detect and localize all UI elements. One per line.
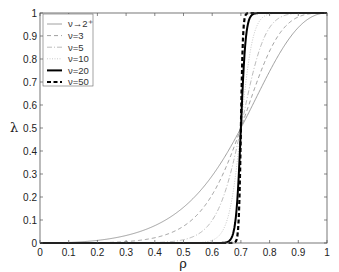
legend-entry: ν=5 (68, 42, 84, 53)
legend-entry: ν=3 (68, 30, 84, 41)
x-tick-label: 0.1 (62, 247, 76, 258)
y-tick-label: 0.8 (23, 54, 37, 65)
x-tick-label: 1 (324, 247, 330, 258)
y-tick-label: 0.7 (23, 77, 37, 88)
legend-entry: ν=10 (68, 53, 89, 64)
y-tick-label: 1 (31, 8, 37, 19)
x-tick-label: 0.9 (291, 247, 305, 258)
y-tick-label: 0.2 (23, 192, 37, 203)
x-axis-label: ρ (179, 256, 187, 271)
line-chart: 00.10.20.30.40.50.60.70.80.91 00.10.20.3… (0, 0, 339, 272)
x-tick-label: 0.6 (205, 247, 219, 258)
y-tick-label: 0.1 (23, 215, 37, 226)
y-tick-label: 0 (31, 238, 37, 249)
y-tick-label: 0.4 (23, 146, 37, 157)
y-tick-label: 0.9 (23, 31, 37, 42)
y-tick-label: 0.3 (23, 169, 37, 180)
y-tick-label: 0.6 (23, 100, 37, 111)
x-tick-label: 0.4 (148, 247, 162, 258)
legend-entry: ν→2⁺ (68, 18, 93, 29)
x-tick-label: 0.7 (234, 247, 248, 258)
y-tick-label: 0.5 (23, 123, 37, 134)
x-tick-label: 0.2 (90, 247, 104, 258)
x-tick-label: 0 (37, 247, 43, 258)
x-tick-label: 0.8 (263, 247, 277, 258)
legend-entry: ν=20 (68, 65, 89, 76)
y-axis-label: λ (10, 120, 18, 135)
legend: ν→2⁺ν=3ν=5ν=10ν=20ν=50 (43, 14, 93, 87)
x-tick-label: 0.3 (119, 247, 133, 258)
legend-entry: ν=50 (68, 76, 89, 87)
